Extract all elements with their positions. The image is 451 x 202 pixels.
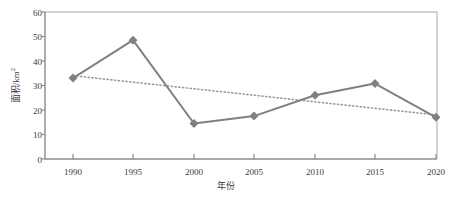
x-tick-label: 2010 [306, 168, 324, 177]
x-tick-label: 2005 [245, 168, 263, 177]
x-tick-label: 2020 [427, 168, 445, 177]
x-axis-tick-labels: 1990 1995 2000 2005 2010 2015 2020 [0, 0, 451, 202]
x-tick-label: 2000 [185, 168, 203, 177]
x-tick-label: 2015 [366, 168, 384, 177]
x-tick-label: 1990 [64, 168, 82, 177]
x-tick-label: 1995 [124, 168, 142, 177]
x-axis-title: 年份 [0, 181, 451, 191]
line-chart: 面积/km2 60 50 40 30 20 10 0 [0, 0, 451, 202]
